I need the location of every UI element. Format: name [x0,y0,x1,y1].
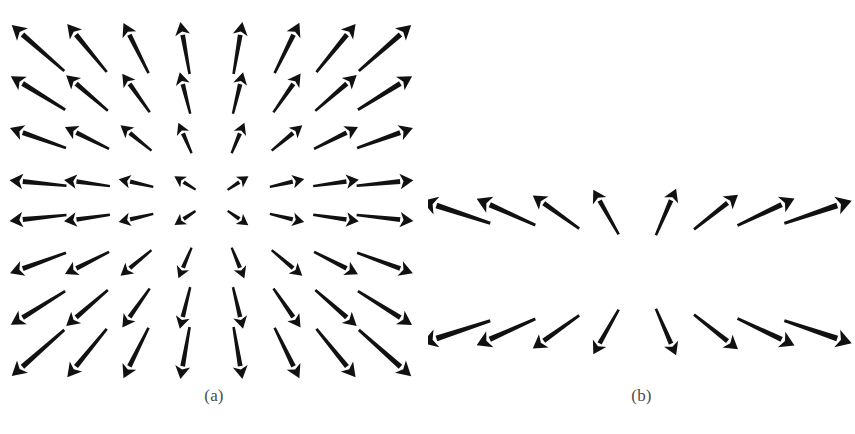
field-arrow [176,72,191,114]
field-arrow [313,174,359,188]
field-arrow [784,319,852,347]
panel-b-caption: (b) [428,386,855,406]
field-arrow [120,125,152,151]
field-arrow [11,290,66,325]
arrow-head [175,365,190,379]
field-arrow [176,287,191,329]
arrow-shaft [313,131,347,150]
panel-a-vector-field [0,0,428,434]
arrow-shaft [313,179,347,187]
field-arrow [174,210,196,225]
field-arrow [273,23,300,74]
field-arrow [231,247,247,278]
field-arrow [122,288,150,328]
arrow-shaft [357,130,401,149]
arrow-shaft [76,213,110,221]
field-arrow [693,314,738,350]
arrow-shaft [315,33,349,73]
arrow-shaft [21,290,66,320]
arrow-head [10,212,24,227]
arrow-shaft [273,327,295,367]
arrow-shaft [128,288,151,319]
arrow-head [175,22,190,36]
arrow-shaft [273,34,295,74]
arrow-shaft [232,34,242,74]
field-arrow [231,123,247,154]
arrow-shaft [314,82,348,112]
field-arrow [121,249,153,276]
field-arrow [10,174,67,189]
arrow-shaft [693,201,729,230]
arrow-shaft [357,290,401,320]
arrow-shaft [489,202,536,226]
arrow-shaft [180,34,191,74]
arrow-shaft [313,213,347,221]
field-arrow [270,213,305,226]
field-arrow [313,126,357,150]
field-arrow [357,125,413,149]
arrow-shaft [542,314,580,343]
arrow-shaft [227,180,240,190]
arrow-head [399,174,413,189]
arrow-head [233,72,247,86]
field-arrow [357,290,412,325]
arrow-shaft [232,287,243,318]
arrow-shaft [128,249,152,270]
field-arrow [67,24,108,73]
arrow-head [233,315,247,329]
arrow-shaft [181,84,192,114]
field-arrow [66,289,109,326]
field-arrow [232,327,247,379]
arrow-shaft [22,130,67,149]
field-arrow [10,252,66,276]
arrow-head [291,175,304,188]
field-arrow [123,327,150,378]
arrow-shaft [127,34,150,74]
field-arrow [10,212,67,227]
field-arrow [175,22,191,74]
arrow-shaft [23,179,67,187]
arrow-shaft [74,328,108,368]
field-arrow [314,289,356,326]
field-arrow [356,212,413,227]
field-arrow [273,327,300,378]
field-arrow [314,75,356,112]
field-arrow [270,175,305,188]
field-arrow [175,327,191,379]
arrow-shaft [180,327,191,367]
arrow-shaft [314,289,348,319]
field-arrow [315,24,355,73]
field-arrow [271,125,302,151]
arrow-shaft [181,133,193,154]
field-arrow [655,308,678,355]
arrow-shaft [356,214,400,222]
arrow-head [291,213,304,226]
arrow-shaft [737,317,783,342]
arrow-shaft [74,33,108,73]
arrow-head [119,213,132,226]
field-arrow [357,174,414,189]
arrow-shaft [270,180,294,188]
field-arrow [227,176,248,191]
arrow-shaft [315,328,349,368]
arrow-shaft [127,327,150,367]
arrow-shaft [227,210,240,221]
arrow-shaft [232,84,243,114]
arrow-shaft [313,251,347,271]
arrow-shaft [231,133,242,154]
arrow-shaft [784,319,838,341]
arrow-shaft [357,81,401,111]
field-arrow [64,212,110,226]
arrow-shaft [270,213,294,222]
field-arrow [533,314,580,348]
arrow-shaft [21,329,66,369]
arrow-shaft [130,180,154,188]
field-arrow [177,123,193,154]
field-arrow [122,74,150,113]
arrow-shaft [272,288,295,319]
arrow-shaft [357,179,401,187]
field-arrow [693,195,738,231]
arrow-shaft [181,247,193,268]
panel-b: (b) [428,0,855,434]
field-arrow [227,210,248,225]
